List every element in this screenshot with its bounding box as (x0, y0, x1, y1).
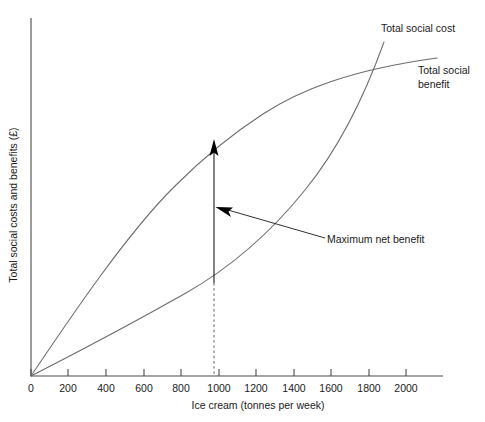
x-tick-label-1200: 1200 (244, 382, 268, 394)
data-curves-group (31, 42, 437, 376)
maximum-net-benefit-leader-line (228, 210, 325, 238)
x-tick-label-1400: 1400 (282, 382, 306, 394)
y-axis-title: Total social costs and benefits (£) (7, 127, 19, 282)
series-label-total-social-cost: Total social cost (381, 22, 455, 34)
x-tick-label-1600: 1600 (319, 382, 343, 394)
x-tick-label-2000: 2000 (394, 382, 418, 394)
chart-canvas: 0 200 400 600 800 1000 1200 1400 1600 18… (0, 0, 485, 422)
curve-total-social-benefit (31, 58, 437, 376)
curve-total-social-cost (31, 42, 384, 376)
series-label-total-social-benefit-line2: benefit (418, 78, 450, 90)
x-axis-ticks (31, 369, 406, 376)
x-tick-label-0: 0 (28, 382, 34, 394)
x-axis-title: Ice cream (tonnes per week) (191, 399, 324, 411)
maximum-net-benefit-arrow-head (216, 207, 234, 217)
maximum-net-benefit-label: Maximum net benefit (327, 233, 425, 245)
x-tick-label-1000: 1000 (207, 382, 231, 394)
x-tick-label-1800: 1800 (357, 382, 381, 394)
chart-figure: 0 200 400 600 800 1000 1200 1400 1600 18… (0, 0, 485, 422)
x-tick-label-400: 400 (97, 382, 115, 394)
axes-group (31, 18, 443, 376)
x-tick-label-200: 200 (59, 382, 77, 394)
x-axis-tick-labels: 0 200 400 600 800 1000 1200 1400 1600 18… (28, 382, 418, 394)
series-label-total-social-benefit-line1: Total social (418, 64, 470, 76)
x-tick-label-800: 800 (172, 382, 190, 394)
x-tick-label-600: 600 (135, 382, 153, 394)
series-labels-group: Total social cost Total social benefit (381, 22, 470, 90)
